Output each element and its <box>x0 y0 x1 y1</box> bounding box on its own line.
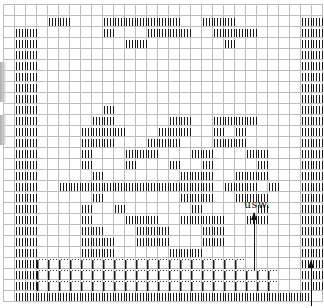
stitch-full <box>103 126 114 137</box>
stitch-dotted <box>224 258 235 269</box>
stitch-full <box>81 236 92 247</box>
stitch-full <box>15 214 26 225</box>
stitch-full <box>15 60 26 71</box>
stitch-dotted <box>246 269 257 280</box>
stitch-full <box>103 27 114 38</box>
stitch-full <box>246 115 257 126</box>
usw-label: usw. <box>244 198 270 211</box>
stitch-full <box>268 181 279 192</box>
stitch-full <box>202 214 213 225</box>
stitch-full <box>136 16 147 27</box>
stitch-full <box>81 126 92 137</box>
stitch-full <box>15 258 26 269</box>
stitch-full <box>235 291 246 302</box>
stitch-full <box>37 291 48 302</box>
stitch-full <box>312 203 323 214</box>
stitch-full <box>15 126 26 137</box>
stitch-dotted <box>169 258 180 269</box>
stitch-full <box>26 71 37 82</box>
stitch-full <box>268 291 279 302</box>
stitch-dotted <box>180 280 191 291</box>
stitch-full <box>213 126 224 137</box>
stitch-full <box>136 38 147 49</box>
stitch-full <box>246 291 257 302</box>
stitch-full <box>15 269 26 280</box>
stitch-full <box>136 148 147 159</box>
stitch-full <box>136 181 147 192</box>
stitch-full <box>191 192 202 203</box>
stitch-full <box>147 236 158 247</box>
stitch-full <box>301 27 312 38</box>
stitch-full <box>26 192 37 203</box>
stitch-full <box>125 148 136 159</box>
stitch-full <box>202 225 213 236</box>
stitch-full <box>257 291 268 302</box>
stitch-full <box>312 214 323 225</box>
stitch-dotted <box>235 269 246 280</box>
stitch-full <box>301 38 312 49</box>
stitch-full <box>301 60 312 71</box>
stitch-dotted <box>191 269 202 280</box>
stitch-full <box>15 159 26 170</box>
stitch-full <box>301 71 312 82</box>
stitch-full <box>191 291 202 302</box>
stitch-full <box>312 126 323 137</box>
stitch-full <box>158 225 169 236</box>
stitch-full <box>301 82 312 93</box>
stitch-full <box>202 291 213 302</box>
stitch-full <box>26 115 37 126</box>
stitch-dotted <box>48 269 59 280</box>
stitch-full <box>81 181 92 192</box>
stitch-full <box>26 269 37 280</box>
stitch-dotted <box>213 269 224 280</box>
stitch-full <box>103 137 114 148</box>
stitch-full <box>213 291 224 302</box>
stitch-full <box>15 115 26 126</box>
stitch-full <box>136 291 147 302</box>
stitch-full <box>235 181 246 192</box>
stitch-full <box>15 82 26 93</box>
stitch-full <box>191 203 202 214</box>
stitch-full <box>92 170 103 181</box>
stitch-full <box>224 16 235 27</box>
stitch-full <box>301 192 312 203</box>
stitch-dotted <box>191 280 202 291</box>
stitch-full <box>147 27 158 38</box>
stitch-full <box>158 181 169 192</box>
stitch-full <box>81 247 92 258</box>
stitch-full <box>213 225 224 236</box>
stitch-dotted <box>202 258 213 269</box>
stitch-full <box>224 291 235 302</box>
stitch-full <box>312 247 323 258</box>
stitch-full <box>312 93 323 104</box>
stitch-full <box>312 192 323 203</box>
stitch-full <box>147 181 158 192</box>
stitch-full <box>15 170 26 181</box>
scan-shadow <box>0 62 6 102</box>
stitch-full <box>235 137 246 148</box>
stitch-full <box>312 269 323 280</box>
stitch-full <box>312 181 323 192</box>
stitch-full <box>301 49 312 60</box>
stitch-full <box>15 291 26 302</box>
stitch-full <box>180 27 191 38</box>
stitch-dotted <box>235 258 246 269</box>
stitch-full <box>301 225 312 236</box>
stitch-full <box>26 291 37 302</box>
stitch-full <box>15 225 26 236</box>
stitch-dotted <box>37 269 48 280</box>
stitch-full <box>279 291 290 302</box>
stitch-dotted <box>268 280 279 291</box>
stitch-full <box>147 137 158 148</box>
stitch-full <box>191 214 202 225</box>
stitch-full <box>169 159 180 170</box>
stitch-full <box>81 148 92 159</box>
stitch-dotted <box>158 269 169 280</box>
stitch-full <box>92 291 103 302</box>
stitch-full <box>169 126 180 137</box>
stitch-dotted <box>191 258 202 269</box>
stitch-full <box>158 126 169 137</box>
stitch-full <box>81 137 92 148</box>
stitch-full <box>147 214 158 225</box>
stitch-full <box>26 214 37 225</box>
